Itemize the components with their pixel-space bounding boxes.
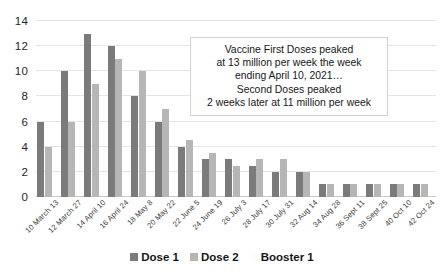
bar-chart: 02468101214 10 March 1312 March 2714 Apr… <box>0 0 444 277</box>
bar-dose-1 <box>413 184 420 197</box>
annotation-line: Second Doses peaked <box>194 83 384 96</box>
annotation-line: Vaccine First Doses peaked <box>194 43 384 56</box>
bar-dose-1 <box>202 159 209 197</box>
legend-label: Dose 2 <box>201 251 239 263</box>
bar-dose-2 <box>280 159 287 197</box>
bar-group <box>412 21 436 197</box>
bar-dose-1 <box>319 184 326 197</box>
bar-group <box>83 21 107 197</box>
bar-dose-2 <box>45 147 52 197</box>
bar-dose-1 <box>272 172 279 197</box>
bar-dose-2 <box>256 159 263 197</box>
bar-dose-2 <box>68 122 75 197</box>
bar-group <box>130 21 154 197</box>
bar-dose-2 <box>139 71 146 197</box>
chart-legend: Dose 1Dose 2Booster 1 <box>0 251 444 263</box>
bar-dose-2 <box>303 172 310 197</box>
bar-dose-1 <box>61 71 68 197</box>
y-axis-tick-label: 4 <box>21 141 28 153</box>
x-axis: 10 March 1312 March 2714 April 1016 Apri… <box>36 198 436 248</box>
bar-dose-1 <box>343 184 350 197</box>
bar-dose-1 <box>366 184 373 197</box>
bar-dose-2 <box>374 184 381 197</box>
bar-dose-2 <box>421 184 428 197</box>
bar-dose-1 <box>249 166 256 197</box>
bar-dose-1 <box>108 46 115 197</box>
bar-dose-2 <box>350 184 357 197</box>
bar-group <box>60 21 84 197</box>
y-axis-tick-label: 14 <box>15 15 28 27</box>
bar-dose-2 <box>397 184 404 197</box>
bar-group <box>36 21 60 197</box>
y-axis-tick-label: 12 <box>15 40 28 52</box>
legend-swatch-icon <box>190 253 198 261</box>
y-axis: 02468101214 <box>0 21 33 197</box>
bar-group <box>389 21 413 197</box>
bar-dose-1 <box>390 184 397 197</box>
y-axis-tick-label: 10 <box>15 65 28 77</box>
peak-callout-annotation: Vaccine First Doses peakedat 13 million … <box>190 37 388 116</box>
bar-dose-2 <box>327 184 334 197</box>
y-axis-tick-label: 0 <box>21 191 28 203</box>
annotation-line: at 13 million per week the week <box>194 56 384 69</box>
bar-group <box>154 21 178 197</box>
y-axis-tick-label: 8 <box>21 90 28 102</box>
bar-dose-2 <box>233 166 240 197</box>
bar-dose-1 <box>225 159 232 197</box>
annotation-line: ending April 10, 2021… <box>194 69 384 82</box>
legend-label: Dose 1 <box>141 251 179 263</box>
bar-dose-2 <box>209 153 216 197</box>
bar-dose-2 <box>115 59 122 197</box>
legend-label: Booster 1 <box>261 251 314 263</box>
legend-swatch-icon <box>130 253 138 261</box>
legend-item-dose-1[interactable]: Dose 1 <box>130 251 179 263</box>
legend-item-dose-2[interactable]: Dose 2 <box>190 251 239 263</box>
bar-dose-1 <box>178 147 185 197</box>
bar-group <box>107 21 131 197</box>
bar-dose-1 <box>155 122 162 197</box>
legend-item-booster-1[interactable]: Booster 1 <box>250 251 314 263</box>
bar-dose-1 <box>131 96 138 197</box>
bar-dose-1 <box>37 122 44 197</box>
bar-dose-2 <box>92 84 99 197</box>
bar-dose-1 <box>296 172 303 197</box>
bar-dose-2 <box>162 109 169 197</box>
bar-dose-2 <box>186 140 193 197</box>
y-axis-tick-label: 6 <box>21 116 28 128</box>
y-axis-tick-label: 2 <box>21 166 28 178</box>
bar-dose-1 <box>84 34 91 197</box>
legend-swatch-icon <box>250 253 258 261</box>
annotation-line: 2 weeks later at 11 million per week <box>194 96 384 109</box>
